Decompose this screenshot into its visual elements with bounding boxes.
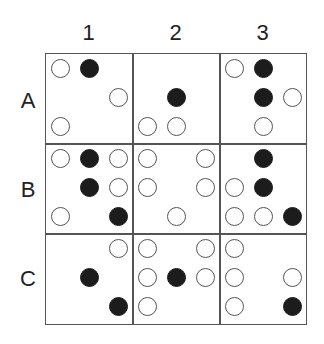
open-circle-icon [254, 207, 273, 226]
filled-circle-icon [80, 178, 99, 197]
open-circle-icon [138, 268, 157, 287]
column-label-1: 1 [45, 20, 132, 46]
open-circle-icon [109, 149, 128, 168]
puzzle-grid [45, 53, 307, 325]
filled-circle-icon [80, 59, 99, 78]
open-circle-icon [254, 117, 273, 136]
open-circle-icon [138, 178, 157, 197]
filled-circle-icon [254, 88, 273, 107]
open-circle-icon [138, 297, 157, 316]
row-label-c: C [14, 266, 42, 292]
cell-a1 [46, 54, 133, 144]
open-circle-icon [225, 297, 244, 316]
open-circle-icon [138, 149, 157, 168]
filled-circle-icon [254, 178, 273, 197]
open-circle-icon [283, 88, 302, 107]
filled-circle-icon [109, 207, 128, 226]
open-circle-icon [109, 178, 128, 197]
filled-circle-icon [254, 59, 273, 78]
cell-c3 [220, 234, 307, 324]
open-circle-icon [225, 207, 244, 226]
column-label-2: 2 [132, 20, 219, 46]
column-label-3: 3 [219, 20, 306, 46]
open-circle-icon [109, 88, 128, 107]
filled-circle-icon [167, 268, 186, 287]
open-circle-icon [196, 149, 215, 168]
open-circle-icon [196, 268, 215, 287]
row-label-a: A [14, 88, 42, 114]
cell-b2 [133, 144, 220, 234]
cell-a3 [220, 54, 307, 144]
cell-b3 [220, 144, 307, 234]
filled-circle-icon [254, 149, 273, 168]
filled-circle-icon [109, 297, 128, 316]
open-circle-icon [51, 117, 70, 136]
open-circle-icon [109, 239, 128, 258]
open-circle-icon [51, 207, 70, 226]
open-circle-icon [225, 59, 244, 78]
open-circle-icon [225, 178, 244, 197]
open-circle-icon [167, 117, 186, 136]
cell-c2 [133, 234, 220, 324]
open-circle-icon [196, 239, 215, 258]
open-circle-icon [138, 117, 157, 136]
cell-c1 [46, 234, 133, 324]
open-circle-icon [225, 268, 244, 287]
filled-circle-icon [283, 297, 302, 316]
cell-b1 [46, 144, 133, 234]
open-circle-icon [51, 59, 70, 78]
filled-circle-icon [80, 268, 99, 287]
filled-circle-icon [80, 149, 99, 168]
open-circle-icon [138, 239, 157, 258]
open-circle-icon [196, 178, 215, 197]
open-circle-icon [283, 268, 302, 287]
open-circle-icon [51, 149, 70, 168]
open-circle-icon [225, 239, 244, 258]
row-label-b: B [14, 177, 42, 203]
filled-circle-icon [283, 207, 302, 226]
filled-circle-icon [167, 88, 186, 107]
open-circle-icon [167, 207, 186, 226]
cell-a2 [133, 54, 220, 144]
